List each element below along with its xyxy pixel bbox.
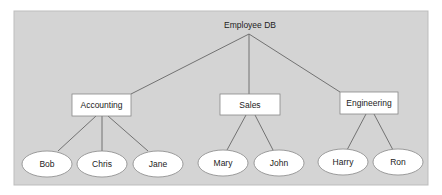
employee-node-john: John — [254, 150, 304, 176]
employee-label: Ron — [390, 157, 406, 167]
department-node-sales: Sales — [220, 94, 280, 115]
employee-node-mary: Mary — [198, 150, 248, 176]
department-label: Sales — [239, 100, 260, 110]
org-tree-diagram: Employee DB Accounting Sales Engineering… — [0, 0, 442, 195]
root-node-label: Employee DB — [224, 20, 276, 30]
employee-node-bob: Bob — [22, 151, 72, 177]
employee-label: John — [270, 158, 289, 168]
department-node-accounting: Accounting — [72, 94, 131, 116]
employee-label: Jane — [149, 159, 168, 169]
employee-label: Chris — [92, 159, 112, 169]
employee-node-jane: Jane — [133, 151, 183, 177]
department-label: Engineering — [346, 98, 392, 108]
employee-node-harry: Harry — [318, 149, 368, 175]
department-label: Accounting — [80, 100, 122, 110]
employee-label: Mary — [214, 158, 234, 168]
department-node-engineering: Engineering — [340, 92, 398, 114]
employee-label: Bob — [39, 159, 54, 169]
employee-node-ron: Ron — [373, 149, 423, 175]
employee-node-chris: Chris — [77, 151, 127, 177]
employee-label: Harry — [333, 157, 355, 167]
